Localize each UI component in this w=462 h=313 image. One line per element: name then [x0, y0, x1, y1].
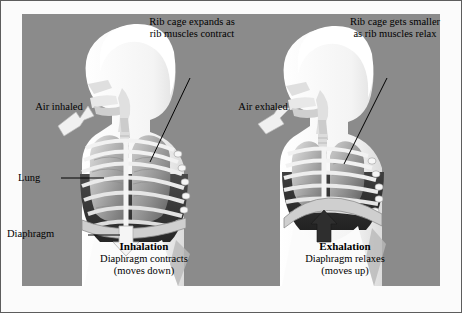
- air-inhaled-label: Air inhaled: [31, 101, 87, 113]
- phase-inhalation-title: Inhalation: [59, 240, 229, 253]
- phase-exhalation: Exhalation Diaphragm relaxes (moves up): [260, 240, 430, 278]
- callout-exhalation: Rib cage gets smaller as rib muscles rel…: [348, 16, 442, 40]
- leader-line-callout-left: [150, 78, 190, 162]
- diaphragm-label: Diaphragm: [7, 228, 54, 239]
- lung-label: Lung: [18, 172, 40, 183]
- phase-inhalation: Inhalation Diaphragm contracts (moves do…: [59, 240, 229, 278]
- phase-exhalation-title: Exhalation: [260, 240, 430, 253]
- air-exhaled-label: Air exhaled: [234, 101, 292, 113]
- callout-inhalation: Rib cage expands as rib muscles contract: [148, 16, 236, 40]
- diagram-page: Rib cage expands as rib muscles contract…: [0, 0, 462, 313]
- phase-inhalation-line1: Diaphragm contracts: [59, 253, 229, 265]
- phase-exhalation-line2: (moves up): [260, 265, 430, 277]
- leader-line-callout-right: [344, 78, 387, 164]
- phase-exhalation-line1: Diaphragm relaxes: [260, 253, 430, 265]
- phase-inhalation-line2: (moves down): [59, 265, 229, 277]
